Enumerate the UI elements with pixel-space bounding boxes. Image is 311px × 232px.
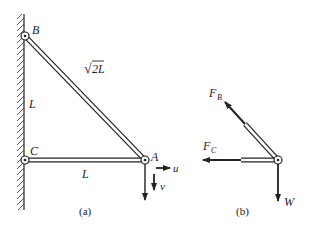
svg-text:F: F: [208, 86, 217, 100]
member-BA: [25, 36, 145, 160]
pin-C: [21, 156, 29, 164]
force-FB-arrow-icon: [225, 102, 245, 124]
label-CA-L: L: [81, 167, 89, 181]
svg-text:2L: 2L: [92, 62, 105, 76]
figure-b: F B F C W (b): [202, 86, 295, 218]
caption-a: (a): [79, 205, 92, 218]
label-C: C: [30, 144, 39, 158]
member-stub-B: [245, 124, 278, 160]
label-B: B: [32, 23, 40, 37]
figure-a: B C A L L √ 2L u v (a): [17, 14, 179, 218]
label-W: W: [284, 195, 295, 209]
wall-support: [17, 14, 24, 210]
caption-b: (b): [236, 205, 249, 218]
pin-joint: [274, 156, 282, 164]
pin-B: [21, 32, 29, 40]
label-BA: √ 2L: [84, 61, 105, 76]
svg-text:C: C: [211, 146, 217, 155]
pin-A: [141, 156, 149, 164]
label-FB: F B: [208, 86, 222, 102]
svg-text:√: √: [84, 61, 92, 76]
label-FC: F C: [202, 139, 217, 155]
label-u: u: [173, 162, 179, 174]
truss-diagram: B C A L L √ 2L u v (a): [0, 0, 311, 232]
svg-text:B: B: [217, 93, 222, 102]
label-A: A: [150, 150, 159, 164]
label-wall-L: L: [28, 97, 36, 111]
svg-text:F: F: [202, 139, 211, 153]
label-v: v: [160, 180, 165, 192]
